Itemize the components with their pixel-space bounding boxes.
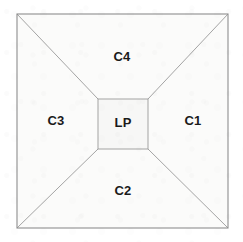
region-label-c4: C4 — [113, 49, 131, 64]
region-label-c3: C3 — [47, 113, 64, 128]
region-label-c2: C2 — [114, 183, 131, 198]
region-label-c1: C1 — [184, 113, 201, 128]
partition-diagram: C4 C3 LP C1 C2 — [0, 0, 243, 242]
core-label-lp: LP — [114, 115, 131, 130]
diagram-canvas: C4 C3 LP C1 C2 — [0, 0, 243, 242]
